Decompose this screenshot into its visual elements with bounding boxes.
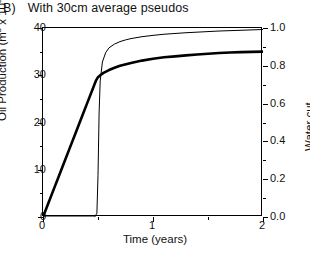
axis-tick xyxy=(263,123,266,124)
y-axis-right-tick-label: 0.6 xyxy=(270,97,285,109)
x-axis-tick-label: 0 xyxy=(39,219,45,231)
axis-tick xyxy=(263,66,268,67)
axis-tick xyxy=(40,193,43,194)
y-axis-left-title: Oil Production (m3 x 103) xyxy=(0,0,8,121)
axis-tick xyxy=(263,198,266,199)
axis-tick xyxy=(263,28,268,29)
plot-area xyxy=(42,27,262,216)
axis-tick xyxy=(263,141,268,142)
panel-title-row: B) With 30cm average pseudos xyxy=(3,1,189,15)
axis-tick xyxy=(208,217,209,220)
chart-panel: B) With 30cm average pseudos 010203040 0… xyxy=(0,0,310,254)
page-title: With 30cm average pseudos xyxy=(28,1,189,15)
axis-tick xyxy=(263,85,266,86)
axis-tick xyxy=(98,217,99,220)
axis-tick xyxy=(263,47,266,48)
y-axis-right-tick-label: 0.0 xyxy=(270,210,285,222)
axis-tick xyxy=(40,146,43,147)
y-axis-left-tick-label: 10 xyxy=(34,163,46,175)
y-axis-left-tick-label: 40 xyxy=(34,21,46,33)
axis-tick xyxy=(263,104,268,105)
axis-tick xyxy=(40,52,43,53)
y-axis-right-tick-label: 0.8 xyxy=(270,59,285,71)
x-axis-tick-label: 1 xyxy=(149,219,155,231)
axis-tick xyxy=(263,179,268,180)
y-axis-right-title: Water cut xyxy=(303,102,310,151)
axis-tick xyxy=(40,99,43,100)
x-axis-tick-label: 2 xyxy=(259,219,265,231)
y-axis-right-tick-label: 0.2 xyxy=(270,172,285,184)
y-axis-left-tick-label: 30 xyxy=(34,68,46,80)
y-axis-left-tick-label: 20 xyxy=(34,116,46,128)
y-axis-right-tick-label: 1.0 xyxy=(270,21,285,33)
y-axis-left-title-mid: x 10 xyxy=(0,3,8,28)
y-axis-left-title-sup1: 3 xyxy=(0,28,3,32)
y-axis-right-tick-label: 0.4 xyxy=(270,134,285,146)
y-axis-left-title-sup2: 3 xyxy=(0,0,3,3)
plot-curves xyxy=(43,28,263,217)
y-axis-left-title-main: Oil Production (m xyxy=(0,32,8,121)
series-oil-production xyxy=(43,52,263,217)
axis-tick xyxy=(263,160,266,161)
x-axis-title: Time (years) xyxy=(123,233,187,245)
